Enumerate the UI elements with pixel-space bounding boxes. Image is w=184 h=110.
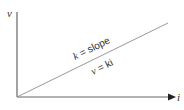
- y-axis-label: v: [7, 7, 12, 19]
- x-axis-arrow-icon: [168, 94, 176, 101]
- equation-text: = ki: [93, 57, 115, 75]
- graph: v i k = slope v = ki: [0, 0, 184, 110]
- x-axis-label: i: [177, 91, 180, 103]
- linear-line: [17, 23, 168, 97]
- slope-text: = slope: [75, 34, 112, 60]
